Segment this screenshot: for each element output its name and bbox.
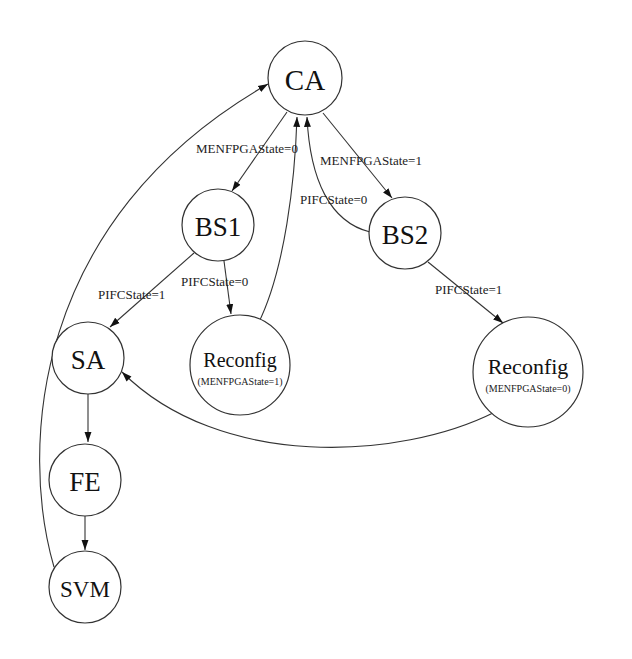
node-fe: FE [49, 444, 121, 516]
edge-label-ca-bs1: MENFPGAState=0 [196, 141, 298, 156]
state-diagram: MENFPGAState=0 MENFPGAState=1 PIFCState=… [0, 0, 632, 659]
edge-label-ca-bs2: MENFPGAState=1 [320, 153, 422, 168]
node-reconfig2-sublabel: (MENFPGAState=0) [485, 383, 570, 395]
edge-label-bs1-reconfig1: PIFCState=0 [181, 274, 248, 289]
edge-bs2-ca [307, 117, 370, 232]
node-ca-label: CA [285, 64, 325, 96]
node-reconfig2-label: Reconfig [488, 354, 569, 379]
node-bs1-label: BS1 [195, 212, 242, 242]
node-ca: CA [268, 41, 342, 115]
edge-reconfig2-sa [122, 372, 495, 447]
node-reconfig1-sublabel: (MENFPGAState=1) [197, 376, 282, 388]
node-svm: SVM [49, 551, 121, 623]
node-reconfig1-label: Reconfig [203, 349, 276, 372]
node-reconfig1: Reconfig (MENFPGAState=1) [190, 315, 290, 415]
edge-label-bs2-reconfig2: PIFCState=1 [435, 282, 502, 297]
node-sa-label: SA [71, 345, 106, 375]
node-reconfig2: Reconfig (MENFPGAState=0) [473, 317, 583, 427]
node-sa: SA [52, 322, 124, 394]
node-svm-label: SVM [60, 577, 110, 602]
node-fe-label: FE [69, 467, 101, 497]
node-bs1: BS1 [182, 189, 254, 261]
node-bs2: BS2 [369, 197, 441, 269]
edge-label-bs2-ca: PIFCState=0 [300, 192, 367, 207]
edge-label-bs1-sa: PIFCState=1 [98, 287, 165, 302]
node-bs2-label: BS2 [382, 220, 429, 250]
